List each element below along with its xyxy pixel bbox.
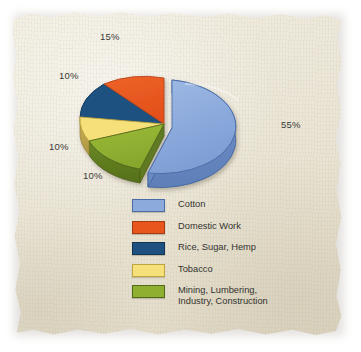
legend-swatch-mining [132, 285, 165, 298]
figure-root: 15% 10% 10% 10% 55% Cotton Domestic Work… [0, 0, 361, 352]
legend-label-domestic-work: Domestic Work [178, 220, 241, 232]
legend-swatch-domestic-work [132, 221, 165, 234]
pie-label-rice-sugar-hemp: 10% [59, 70, 79, 81]
legend: Cotton Domestic Work Rice, Sugar, Hemp T… [132, 198, 332, 311]
pie-body [80, 76, 236, 187]
legend-label-tobacco: Tobacco [178, 263, 213, 275]
legend-swatch-rice-sugar-hemp [132, 242, 165, 255]
legend-item-tobacco[interactable]: Tobacco [132, 263, 332, 281]
legend-item-mining[interactable]: Mining, Lumbering, Industry, Constructio… [132, 284, 332, 308]
legend-label-cotton: Cotton [178, 198, 205, 210]
pie-label-tobacco: 10% [49, 141, 69, 152]
legend-label-mining: Mining, Lumbering, Industry, Constructio… [178, 284, 268, 308]
pie-label-domestic-work: 15% [100, 31, 120, 42]
legend-item-rice-sugar-hemp[interactable]: Rice, Sugar, Hemp [132, 241, 332, 259]
legend-swatch-cotton [132, 199, 165, 212]
pie-label-cotton: 55% [281, 119, 301, 130]
legend-swatch-tobacco [132, 264, 165, 277]
pie-label-mining: 10% [83, 170, 103, 181]
legend-label-rice-sugar-hemp: Rice, Sugar, Hemp [178, 241, 256, 253]
legend-item-domestic-work[interactable]: Domestic Work [132, 220, 332, 238]
legend-item-cotton[interactable]: Cotton [132, 198, 332, 216]
